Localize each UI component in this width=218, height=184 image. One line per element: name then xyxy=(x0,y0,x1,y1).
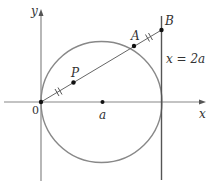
diagram-svg: y x 0 a P A B x = 2a xyxy=(0,0,218,184)
y-axis-arrow-icon xyxy=(39,9,44,16)
origin-label: 0 xyxy=(32,104,39,117)
x-axis-arrow-icon xyxy=(199,100,206,105)
point-P xyxy=(71,80,75,84)
point-a xyxy=(101,100,105,104)
line-OB xyxy=(41,30,162,102)
point-B xyxy=(159,28,163,32)
label-A: A xyxy=(130,29,140,43)
point-A xyxy=(132,44,136,48)
point-O xyxy=(39,100,43,104)
x-axis-label: x xyxy=(199,107,206,121)
label-P: P xyxy=(70,66,80,80)
y-axis-label: y xyxy=(30,4,38,18)
diagram-canvas: y x 0 a P A B x = 2a xyxy=(0,0,218,184)
label-a: a xyxy=(99,108,106,122)
label-B: B xyxy=(164,14,174,28)
vertical-line-label: x = 2a xyxy=(166,52,205,66)
